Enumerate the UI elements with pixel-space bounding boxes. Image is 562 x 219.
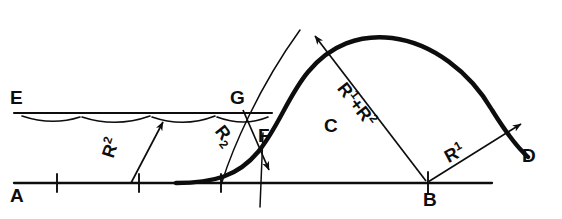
hatch-scallop-arcs-under-line-E [22, 116, 268, 122]
point-label-D: D [522, 146, 536, 165]
geometry-diagram: E G F C B D A R2 R2 R1+R2 R1 [0, 0, 562, 219]
point-label-G: G [230, 88, 245, 107]
point-label-F: F [258, 126, 270, 145]
point-label-C: C [324, 116, 338, 135]
point-label-A: A [10, 186, 24, 205]
diagram-canvas [0, 0, 562, 219]
dimension-arrow-r1 [428, 124, 521, 182]
point-label-B: B [423, 190, 437, 209]
dimension-arrow-r2-left [131, 122, 163, 183]
point-label-E: E [10, 88, 23, 107]
